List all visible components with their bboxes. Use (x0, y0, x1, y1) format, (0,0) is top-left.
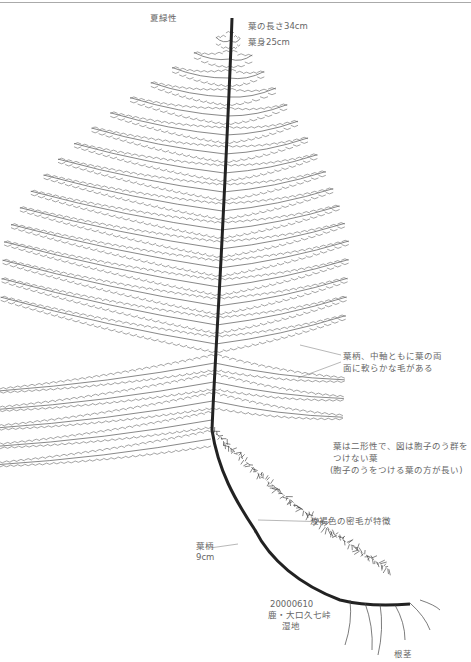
dimorphic-note-line1: 葉は二形性で、図は胞子のう群を (333, 440, 468, 452)
rhizome-label: 根茎 (394, 648, 412, 660)
hair-note-line1: 葉柄、中軸ともに葉の両 (343, 350, 442, 362)
blade-length-label: 葉身25cm (248, 36, 290, 48)
hair-note-line2: 面に軟らかな毛がある (343, 362, 433, 374)
collection-habitat: 湿地 (282, 620, 300, 632)
roots (345, 600, 440, 655)
frond-length-label: 葉の長さ34cm (248, 20, 308, 32)
scales-note: 淡褐色の密毛が特徴 (310, 515, 391, 527)
pinnae (0, 32, 349, 468)
stipe-length: 9cm (196, 551, 214, 563)
dimorphic-note-line3: (胞子のうをつける葉の方が長い) (330, 464, 463, 476)
dimorphic-note-line2: つけない葉 (333, 452, 378, 464)
habit-label: 夏緑性 (150, 12, 177, 24)
fern-illustration (0, 0, 471, 662)
